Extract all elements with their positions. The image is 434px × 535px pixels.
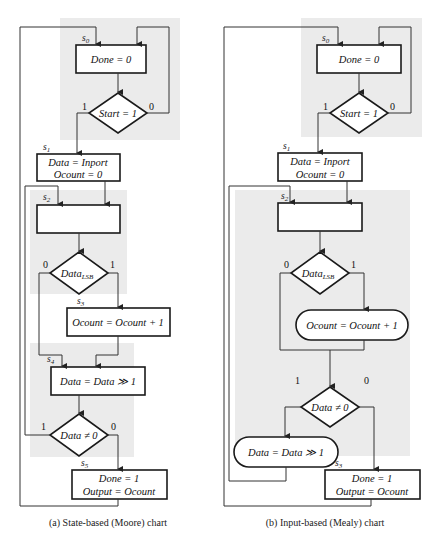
moore-lsb-true: 1 — [110, 259, 115, 270]
moore-s1-action-1: Data = Inport — [47, 157, 109, 168]
moore-s2-box — [37, 205, 120, 233]
mealy-nonzero-text: Data ≠ 0 — [310, 402, 349, 413]
mealy-start-true: 1 — [323, 101, 328, 112]
mealy-nonzero-false: 0 — [364, 375, 369, 386]
mealy-s3-label: s3 — [335, 458, 343, 470]
mealy-s1-label: s1 — [283, 141, 290, 153]
mealy-start-text: Start = 1 — [340, 108, 378, 119]
mealy-lsb-true: 1 — [351, 259, 356, 270]
moore-s3-action: Ocount = Ocount + 1 — [72, 317, 164, 328]
mealy-caption: (b) Input-based (Mealy) chart — [266, 517, 385, 529]
moore-caption: (a) State-based (Moore) chart — [49, 517, 167, 529]
asm-charts: s0 Done = 0 Start = 1 1 0 s1 Data = Inpo… — [0, 0, 434, 535]
moore-s5-action-1: Done = 1 — [98, 473, 139, 484]
moore-nonzero-text: Data ≠ 0 — [59, 430, 98, 441]
mealy-shift-text: Data = Data ≫ 1 — [247, 447, 324, 458]
mealy-chart: s0 Done = 0 Start = 1 1 0 s1 Data = Inpo… — [224, 18, 422, 529]
moore-s1-action-2: Ocount = 0 — [54, 169, 103, 180]
moore-s1-label: s1 — [43, 142, 50, 154]
moore-s5-action-2: Output = Ocount — [83, 486, 156, 497]
moore-start-text: Start = 1 — [99, 108, 137, 119]
moore-s5-label: s5 — [81, 458, 89, 470]
mealy-s3-action-2: Output = Ocount — [336, 486, 409, 497]
moore-nonzero-false: 0 — [111, 421, 116, 432]
mealy-start-false: 0 — [390, 101, 395, 112]
mealy-lsb-false: 0 — [284, 259, 289, 270]
moore-nonzero-true: 1 — [41, 421, 46, 432]
mealy-s3-action-1: Done = 1 — [351, 473, 392, 484]
mealy-s2-box — [278, 203, 362, 231]
moore-start-false: 0 — [149, 101, 154, 112]
moore-chart: s0 Done = 0 Start = 1 1 0 s1 Data = Inpo… — [20, 18, 180, 529]
mealy-nonzero-true: 1 — [295, 375, 300, 386]
mealy-s1-action-2: Ocount = 0 — [296, 169, 345, 180]
moore-s3-label: s3 — [77, 296, 85, 308]
mealy-s0-action: Done = 0 — [338, 54, 380, 65]
moore-s0-action: Done = 0 — [90, 54, 132, 65]
mealy-inc-text: Ocount = Ocount + 1 — [306, 320, 398, 331]
moore-s4-action: Data = Data ≫ 1 — [59, 376, 136, 387]
mealy-s1-action-1: Data = Inport — [289, 156, 351, 167]
moore-lsb-false: 0 — [43, 259, 48, 270]
moore-start-true: 1 — [82, 101, 87, 112]
